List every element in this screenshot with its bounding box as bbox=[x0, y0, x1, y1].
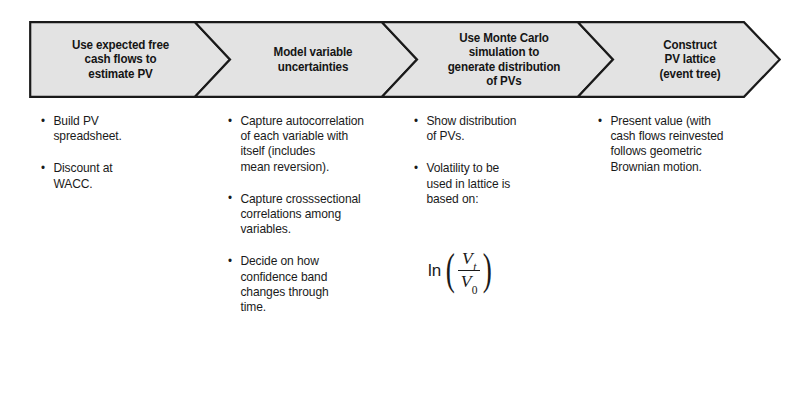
stage-header-4: Construct PV lattice (event tree) bbox=[616, 21, 765, 98]
formula-open-paren: ( bbox=[446, 252, 455, 288]
formula-fraction: Vt V0 bbox=[458, 249, 480, 291]
formula-numerator-subscript: t bbox=[473, 261, 476, 273]
stage-header-3: Use Monte Carlo simulation to generate d… bbox=[420, 21, 587, 98]
process-flow-diagram: Use expected free cash flows to estimate… bbox=[0, 0, 791, 398]
bullet-column-3: Show distribution of PVs. Volatility to … bbox=[414, 114, 564, 224]
bullet-item: Decide on how confidence band changes th… bbox=[228, 254, 381, 315]
bullet-item: Discount at WACC. bbox=[41, 161, 184, 191]
stage-header-2-text: Model variable uncertainties bbox=[234, 45, 392, 74]
formula-denominator: V0 bbox=[459, 271, 479, 292]
formula-ln-label: ln bbox=[428, 262, 441, 279]
stage-header-1: Use expected free cash flows to estimate… bbox=[39, 21, 202, 98]
formula-numerator: Vt bbox=[460, 249, 478, 270]
stage-header-2: Model variable uncertainties bbox=[234, 21, 392, 98]
bullet-item: Present value (with cash flows reinveste… bbox=[598, 114, 775, 175]
stage-header-1-text: Use expected free cash flows to estimate… bbox=[39, 38, 202, 82]
volatility-formula: ln ( Vt V0 ) bbox=[428, 243, 495, 297]
formula-denominator-subscript: 0 bbox=[472, 284, 478, 296]
bullet-item: Capture autocorrelation of each variable… bbox=[228, 114, 381, 175]
stage-header-3-text: Use Monte Carlo simulation to generate d… bbox=[420, 31, 587, 89]
bullet-item: Capture crosssectional correlations amon… bbox=[228, 192, 381, 238]
formula-denominator-base: V bbox=[461, 271, 472, 291]
bullet-item: Show distribution of PVs. bbox=[414, 114, 557, 144]
bullet-column-2: Capture autocorrelation of each variable… bbox=[228, 114, 388, 332]
bullet-item: Build PV spreadsheet. bbox=[41, 114, 184, 144]
bullet-column-1: Build PV spreadsheet. Discount at WACC. bbox=[41, 114, 191, 209]
bullet-column-4: Present value (with cash flows reinveste… bbox=[598, 114, 783, 192]
formula-numerator-base: V bbox=[462, 248, 473, 268]
stage-header-4-text: Construct PV lattice (event tree) bbox=[616, 38, 765, 82]
bullet-item: Volatility to be used in lattice is base… bbox=[414, 161, 557, 207]
formula-close-paren: ) bbox=[483, 252, 492, 288]
